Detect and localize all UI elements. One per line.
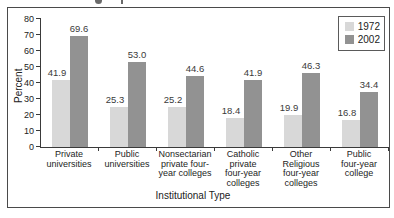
legend: 19722002 [338, 16, 385, 51]
category-label-line: colleges [272, 179, 330, 189]
plot-area: 0102030405060708041.969.625.353.025.244.… [40, 19, 389, 148]
category-label: Nonsectarianprivate four-year colleges [156, 150, 214, 188]
bar-value-label: 41.9 [235, 67, 271, 78]
bar-1972 [52, 80, 70, 147]
y-tick-label: 70 [12, 30, 34, 40]
bar-1972 [226, 118, 244, 147]
bar-1972 [284, 115, 302, 147]
category-label: Publicuniversities [98, 150, 156, 188]
legend-item: 2002 [345, 34, 380, 45]
category-label-line: universities [98, 160, 156, 170]
category-label-line: year colleges [156, 169, 214, 179]
y-tick-label: 40 [12, 78, 34, 88]
bar-2002 [360, 92, 378, 147]
category-label-line: universities [40, 160, 98, 170]
x-tick-mark [388, 147, 389, 151]
cropped-title-fragment [95, 0, 102, 4]
legend-item: 1972 [345, 21, 380, 32]
legend-swatch-icon [345, 22, 354, 31]
bar-2002 [244, 80, 262, 147]
bar-2002 [302, 73, 320, 147]
bar-group: 19.946.3 [273, 19, 331, 147]
category-axis-labels: PrivateuniversitiesPublicuniversitiesNon… [40, 150, 388, 188]
bar-group: 25.244.6 [157, 19, 215, 147]
bar-value-label: 46.3 [293, 60, 329, 71]
bar-group: 18.441.9 [215, 19, 273, 147]
bar-1972 [110, 107, 128, 147]
chart-frame: Percent 0102030405060708041.969.625.353.… [7, 7, 390, 208]
bar-value-label: 34.4 [351, 79, 387, 90]
bar-1972 [342, 120, 360, 147]
bar-2002 [70, 36, 88, 147]
bar-value-label: 44.6 [177, 63, 213, 74]
bar-1972 [168, 107, 186, 147]
legend-swatch-icon [345, 35, 354, 44]
category-label: Catholicprivatefour-yearcolleges [214, 150, 272, 188]
bar-2002 [186, 76, 204, 147]
cropped-title-fragment [121, 0, 123, 4]
bar-group: 41.969.6 [41, 19, 99, 147]
y-tick-label: 50 [12, 62, 34, 72]
legend-label: 1972 [358, 21, 380, 32]
x-axis-title: Institutional Type [28, 190, 358, 201]
category-label-line: colleges [214, 179, 272, 189]
y-tick-label: 0 [12, 142, 34, 152]
category-label-line: college [330, 169, 388, 179]
category-label: Privateuniversities [40, 150, 98, 188]
y-tick-label: 10 [12, 126, 34, 136]
bar-2002 [128, 62, 146, 147]
category-label: Publicfour-yearcollege [330, 150, 388, 188]
bar-group: 25.353.0 [99, 19, 157, 147]
y-tick-label: 80 [12, 14, 34, 24]
bar-value-label: 69.6 [61, 23, 97, 34]
bar-chart-figure: Percent 0102030405060708041.969.625.353.… [0, 0, 394, 218]
category-label: OtherReligiousfour-yearcolleges [272, 150, 330, 188]
bar-value-label: 53.0 [119, 49, 155, 60]
y-tick-label: 20 [12, 110, 34, 120]
y-tick-label: 30 [12, 94, 34, 104]
legend-label: 2002 [358, 34, 380, 45]
y-tick-label: 60 [12, 46, 34, 56]
